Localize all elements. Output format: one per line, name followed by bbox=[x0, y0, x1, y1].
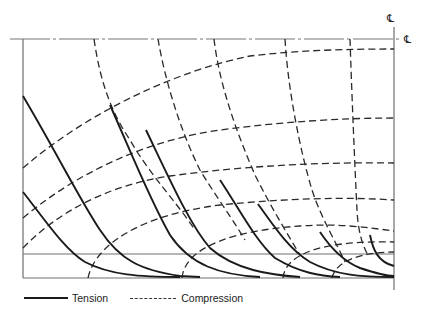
compression-arcs bbox=[23, 49, 394, 278]
solid-line-swatch-icon bbox=[24, 297, 68, 299]
legend-item-compression: Compression bbox=[130, 292, 243, 304]
legend-label-compression: Compression bbox=[181, 292, 243, 304]
tension-curve-2 bbox=[23, 192, 180, 277]
compression-arc-2 bbox=[23, 118, 394, 218]
tension-curve-8 bbox=[370, 235, 394, 266]
legend-label-tension: Tension bbox=[72, 292, 108, 304]
compression-vertical-2 bbox=[158, 39, 245, 240]
compression-vertical-5 bbox=[350, 39, 368, 255]
centerline-label-right: ℄ bbox=[403, 33, 411, 46]
compression-arc-1 bbox=[23, 49, 394, 168]
legend-item-tension: Tension bbox=[24, 292, 108, 304]
compression-vertical-4 bbox=[285, 39, 345, 262]
tension-curves bbox=[23, 96, 394, 277]
compression-vertical-3 bbox=[214, 39, 300, 255]
centerline-label-top: ℄ bbox=[386, 12, 394, 25]
stress-trajectory-diagram: ℄ ℄ bbox=[0, 0, 432, 317]
tension-curve-4 bbox=[146, 130, 300, 277]
frame bbox=[10, 27, 402, 290]
tension-curve-5 bbox=[220, 180, 340, 277]
legend: Tension Compression bbox=[24, 290, 265, 306]
compression-arc-3 bbox=[23, 163, 394, 248]
dashed-line-swatch-icon bbox=[130, 298, 176, 299]
